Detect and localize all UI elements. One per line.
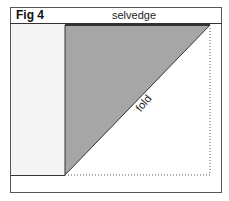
fold-diagram	[0, 0, 229, 201]
